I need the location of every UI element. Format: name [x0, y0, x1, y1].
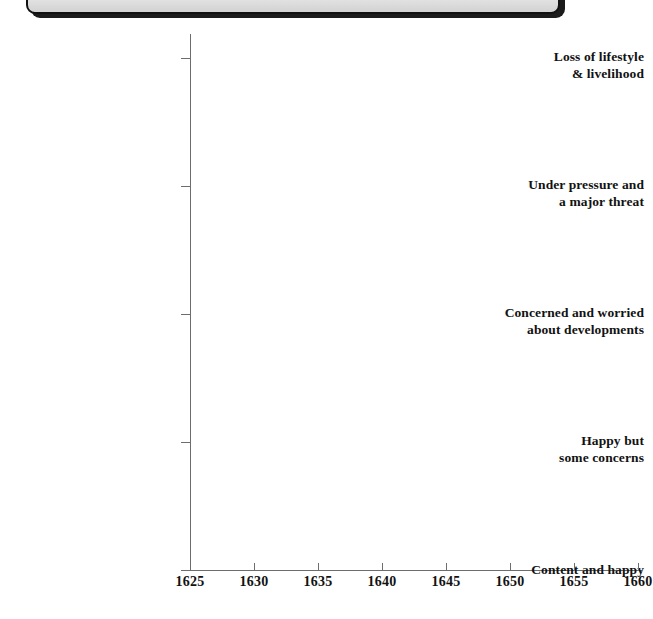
x-tick-7 — [638, 563, 639, 571]
chart-figure: Loss of lifestyle & livelihood Under pre… — [0, 0, 653, 619]
x-axis-label-7: 1660 — [611, 573, 653, 591]
plot-area — [191, 34, 642, 570]
y-tick-4 — [181, 570, 190, 571]
x-tick-2 — [318, 563, 319, 571]
y-axis-label-2-line1: Concerned and worried — [477, 304, 644, 321]
y-axis-label-1: Under pressure and a major threat — [477, 176, 653, 210]
x-tick-3 — [382, 563, 383, 571]
y-tick-2 — [181, 314, 190, 315]
x-axis-label-0: 1625 — [163, 573, 217, 591]
x-tick-4 — [446, 563, 447, 571]
y-axis-label-3-line2: some concerns — [477, 449, 644, 466]
y-axis-label-3-line1: Happy but — [477, 432, 644, 449]
x-tick-0 — [190, 563, 191, 571]
x-axis-label-5: 1650 — [483, 573, 537, 591]
x-tick-6 — [574, 563, 575, 571]
x-axis-label-2: 1635 — [291, 573, 345, 591]
y-axis-label-0-line1: Loss of lifestyle — [477, 48, 644, 65]
y-axis-line — [190, 34, 191, 571]
x-axis-label-4: 1645 — [419, 573, 473, 591]
y-axis-label-2-line2: about developments — [477, 321, 644, 338]
y-axis-label-3: Happy but some concerns — [477, 432, 653, 466]
y-tick-3 — [181, 442, 190, 443]
y-axis-label-2: Concerned and worried about developments — [477, 304, 653, 338]
y-axis-label-1-line1: Under pressure and — [477, 176, 644, 193]
y-axis-label-0-line2: & livelihood — [477, 65, 644, 82]
x-axis-label-3: 1640 — [355, 573, 409, 591]
x-axis-label-6: 1655 — [547, 573, 601, 591]
x-tick-5 — [510, 563, 511, 571]
x-axis-label-1: 1630 — [227, 573, 281, 591]
y-axis-label-1-line2: a major threat — [477, 193, 644, 210]
y-tick-0 — [181, 58, 190, 59]
y-axis-label-0: Loss of lifestyle & livelihood — [477, 48, 653, 82]
x-tick-1 — [254, 563, 255, 571]
y-tick-1 — [181, 186, 190, 187]
